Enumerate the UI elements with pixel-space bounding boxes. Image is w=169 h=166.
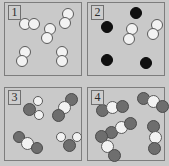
atom-white [34, 110, 44, 120]
atom-white [28, 18, 40, 30]
panel-label-4: 4 [91, 90, 104, 105]
atom-white [123, 33, 135, 45]
atom-gray [156, 100, 169, 113]
atom-gray [52, 109, 65, 122]
atom-white [56, 132, 66, 142]
atom-white [72, 132, 82, 142]
atom-white [147, 28, 159, 40]
atom-gray [31, 142, 43, 154]
atom-white [16, 55, 28, 67]
atom-white [59, 17, 71, 29]
atom-gray [124, 117, 137, 130]
atom-white [41, 32, 53, 44]
atom-black [101, 54, 113, 66]
panel-label-2: 2 [91, 5, 104, 20]
atom-black [130, 7, 142, 19]
atom-black [140, 57, 152, 69]
atom-white [33, 96, 43, 106]
particle-diagram-figure: 1234 [0, 0, 169, 166]
panel-label-3: 3 [8, 90, 21, 105]
panel-label-1: 1 [8, 5, 21, 20]
atom-gray [116, 100, 129, 113]
atom-white [56, 55, 68, 67]
atom-gray [108, 149, 121, 162]
atom-gray [148, 142, 161, 155]
atom-black [101, 21, 113, 33]
